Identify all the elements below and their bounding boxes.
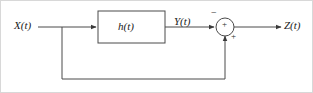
intermediate-signal-label: Y(t) — [174, 16, 191, 27]
plus-sign-icon: + — [222, 20, 227, 29]
minus-sign-icon: − — [211, 8, 217, 18]
output-signal-label: Z(t) — [284, 20, 301, 31]
diagram-vector-layer — [0, 0, 313, 93]
input-signal-label: X(t) — [14, 20, 31, 31]
filter-block-label: h(t) — [118, 21, 134, 32]
block-diagram-canvas: X(t) h(t) Y(t) Z(t) − + + — [0, 0, 313, 93]
plus-sign-feedback-icon: + — [231, 32, 236, 41]
